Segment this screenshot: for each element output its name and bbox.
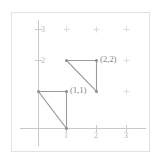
- lattice-marker-plus: [124, 89, 130, 95]
- plot-canvas: [0, 0, 164, 164]
- x-tick-label-2: 2: [94, 131, 98, 140]
- vertex-dot: [65, 90, 68, 93]
- lattice-marker-plus: [124, 27, 130, 33]
- x-tick-label-3: 3: [124, 131, 128, 140]
- vertex-dot: [95, 90, 98, 93]
- vertex-dot: [37, 90, 40, 93]
- y-tick-label-3: 3: [41, 25, 45, 34]
- point-label-2-2: (2,2): [100, 54, 116, 64]
- lattice-marker-plus: [124, 58, 130, 64]
- x-tick-label-1: 1: [64, 131, 68, 140]
- coordinate-plot-figure: (1,1) (2,2) 1 2 3 2 3: [0, 0, 164, 164]
- point-label-1-1: (1,1): [70, 85, 86, 95]
- lattice-marker-plus: [64, 27, 70, 33]
- triangle-lower: [37, 90, 68, 130]
- lattice-marker-plus: [94, 27, 100, 33]
- vertex-dot: [95, 59, 98, 62]
- vertex-dot: [65, 59, 68, 62]
- vertex-dot: [65, 127, 68, 130]
- y-tick-label-2: 2: [41, 56, 45, 65]
- axes-group: [20, 20, 146, 146]
